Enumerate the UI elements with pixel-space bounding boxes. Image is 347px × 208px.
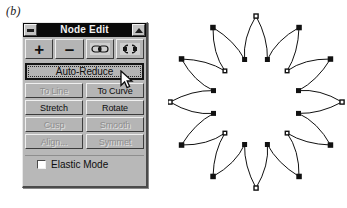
button-row-cusp-smooth: Cusp Smooth: [25, 117, 144, 132]
cusp-label: Cusp: [44, 120, 65, 130]
figure-label: (b): [6, 4, 21, 19]
join-nodes-icon: [89, 42, 111, 56]
stretch-label: Stretch: [40, 103, 68, 113]
auto-reduce-button[interactable]: Auto-Reduce: [25, 63, 144, 80]
node-handle[interactable]: [222, 68, 227, 73]
node-handle[interactable]: [242, 57, 247, 62]
screenshot-root: (b) Node Edit + –: [0, 0, 347, 208]
to-curve-button[interactable]: To Curve: [86, 83, 144, 98]
node-handle[interactable]: [210, 25, 216, 31]
node-handle[interactable]: [265, 57, 270, 62]
minimize-icon: [27, 29, 34, 32]
node-handle[interactable]: [210, 174, 216, 180]
node-edit-dialog: Node Edit + –: [22, 22, 148, 188]
break-node-icon: [119, 42, 141, 56]
star-path-outline[interactable]: [170, 16, 342, 188]
node-toolbar: + –: [23, 37, 146, 60]
button-row-to-line-to-curve: To Line To Curve: [25, 83, 144, 98]
node-handle[interactable]: [211, 111, 216, 116]
join-nodes-button[interactable]: [86, 39, 114, 59]
elastic-mode-row[interactable]: Elastic Mode: [25, 155, 144, 173]
plus-icon: +: [34, 41, 44, 58]
align-label: Align...: [41, 137, 68, 147]
node-handle[interactable]: [285, 131, 290, 136]
dialog-title: Node Edit: [60, 23, 108, 37]
node-handle[interactable]: [328, 142, 334, 148]
node-handle[interactable]: [296, 111, 301, 116]
dialog-titlebar[interactable]: Node Edit: [23, 23, 146, 37]
node-command-buttons: Auto-Reduce To Line To Curve Stretch Rot…: [23, 60, 146, 153]
node-handle[interactable]: [285, 68, 290, 73]
maximize-button[interactable]: [132, 24, 145, 36]
smooth-button[interactable]: Smooth: [86, 117, 144, 132]
elastic-mode-checkbox[interactable]: [37, 160, 46, 169]
to-curve-label: To Curve: [97, 86, 132, 96]
maximize-icon: [135, 28, 143, 33]
star-path-svg[interactable]: [168, 6, 346, 202]
cusp-button[interactable]: Cusp: [25, 117, 83, 132]
rotate-button[interactable]: Rotate: [86, 100, 144, 115]
rotate-label: Rotate: [102, 103, 128, 113]
button-row-stretch-rotate: Stretch Rotate: [25, 100, 144, 115]
node-handle[interactable]: [328, 56, 334, 62]
star-path-canvas[interactable]: [168, 6, 346, 206]
align-button[interactable]: Align...: [25, 134, 83, 149]
node-handle[interactable]: [242, 142, 247, 147]
symmet-label: Symmet: [99, 137, 131, 147]
symmet-button[interactable]: Symmet: [86, 134, 144, 149]
add-node-button[interactable]: +: [25, 39, 53, 59]
node-handle[interactable]: [179, 142, 185, 148]
delete-node-button[interactable]: –: [55, 39, 83, 59]
button-row-align-symmet: Align... Symmet: [25, 134, 144, 149]
node-handle[interactable]: [211, 88, 216, 93]
node-handle[interactable]: [265, 142, 270, 147]
break-node-button[interactable]: [116, 39, 144, 59]
stretch-button[interactable]: Stretch: [25, 100, 83, 115]
node-handle[interactable]: [222, 131, 227, 136]
node-handle[interactable]: [253, 185, 258, 191]
node-handle[interactable]: [296, 25, 302, 31]
node-handle[interactable]: [253, 13, 258, 18]
auto-reduce-wrapper: Auto-Reduce: [25, 63, 144, 80]
node-handle[interactable]: [168, 99, 173, 105]
node-handle[interactable]: [339, 99, 345, 105]
minimize-button[interactable]: [24, 24, 37, 36]
auto-reduce-label: Auto-Reduce: [56, 66, 113, 77]
smooth-label: Smooth: [100, 120, 130, 130]
to-line-label: To Line: [40, 86, 68, 96]
node-handle[interactable]: [296, 88, 301, 93]
minus-icon: –: [65, 41, 74, 58]
node-handle[interactable]: [296, 174, 302, 180]
elastic-mode-label: Elastic Mode: [51, 159, 108, 170]
to-line-button[interactable]: To Line: [25, 83, 83, 98]
node-handle[interactable]: [179, 56, 185, 62]
